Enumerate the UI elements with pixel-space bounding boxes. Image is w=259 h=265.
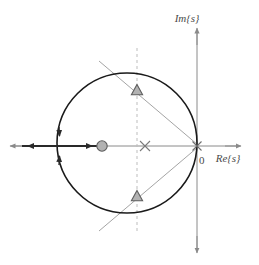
zero-marker (97, 141, 107, 151)
locus-arrow-circle-up (59, 127, 60, 136)
imaginary-axis-label: Im{s} (174, 12, 200, 24)
origin-label: 0 (199, 154, 205, 166)
root-locus-circle (57, 73, 197, 213)
root-locus-figure: Im{s} Re{s} 0 (0, 0, 259, 265)
locus-arrow-circle-down (59, 156, 60, 165)
damping-ray-lower-line (99, 147, 198, 231)
real-axis-label: Re{s} (215, 152, 241, 164)
axes-group (10, 28, 241, 253)
